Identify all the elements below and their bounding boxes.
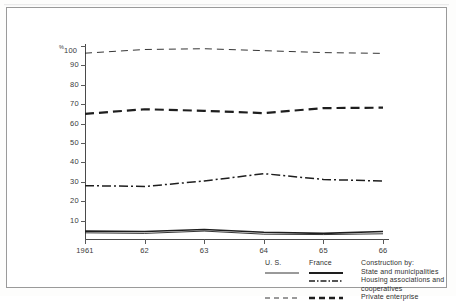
y-axis-tick-label-text: 70: [41, 99, 79, 108]
legend-line-sample-france: [309, 277, 345, 285]
y-axis-unit-value: 100: [64, 46, 77, 55]
series-line: [85, 49, 383, 54]
series-line: [85, 108, 383, 114]
y-axis-tick-label: 90: [41, 60, 79, 69]
legend-line-sample-france: [309, 269, 345, 277]
y-axis-tick-label: 30: [41, 177, 79, 186]
legend-line-sample-us: [265, 277, 301, 285]
legend-line-sample-us: [265, 269, 301, 277]
legend-column-france: France: [309, 259, 332, 267]
legend-label: State and municipalities: [361, 268, 439, 276]
y-axis-tick-label-text: 50: [41, 138, 79, 147]
legend-label: cooperatives: [361, 285, 403, 293]
y-axis-tick-label-text: 60: [41, 119, 79, 128]
y-axis-tick-label: 80: [41, 80, 79, 89]
x-axis-tick-label: 1961: [76, 246, 94, 255]
legend-title: Construction by:: [361, 259, 414, 267]
y-axis-tick-label: 60: [41, 119, 79, 128]
y-axis-tick-label-text: 10: [41, 216, 79, 225]
legend-line-sample-us: [265, 294, 301, 302]
x-axis-tick-label: 64: [259, 246, 268, 255]
legend-line-sample-france: [309, 286, 345, 294]
chart-series-layer: [85, 46, 387, 240]
y-axis-tick-label-text: 40: [41, 157, 79, 166]
figure-frame: %100 908070605040302010 19616263646566 U…: [6, 7, 447, 288]
legend-label: Private enterprise: [361, 293, 419, 301]
x-axis-tick-label: 65: [319, 246, 328, 255]
legend-column-us: U. S.: [265, 259, 281, 267]
y-axis-tick-label-text: 30: [41, 177, 79, 186]
series-line: [85, 174, 383, 187]
y-axis-tick-label: 20: [41, 196, 79, 205]
y-axis-tick-label: 10: [41, 216, 79, 225]
y-axis-tick-label-text: 90: [41, 60, 79, 69]
x-axis-tick-label: 66: [379, 246, 388, 255]
y-axis-tick-label: 50: [41, 138, 79, 147]
x-axis-tick-label: 63: [200, 246, 209, 255]
y-axis-tick-label-text: 20: [41, 196, 79, 205]
y-axis-tick-label: 70: [41, 99, 79, 108]
y-axis-unit-label: %100: [59, 44, 77, 55]
legend-label: Housing associations and: [361, 276, 444, 284]
legend-line-sample-us: [265, 286, 301, 294]
y-axis-tick-label-text: 80: [41, 80, 79, 89]
x-axis-tick-label: 62: [140, 246, 149, 255]
y-axis-tick-label: 40: [41, 157, 79, 166]
legend-line-sample-france: [309, 294, 345, 302]
